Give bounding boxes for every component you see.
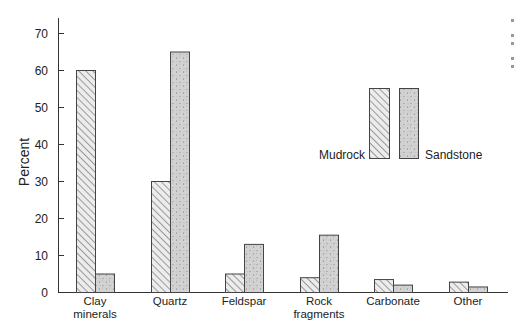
bar-mudrock-feldspar: [226, 274, 245, 293]
y-tick-label: 10: [35, 249, 49, 263]
bar-mudrock-other: [450, 282, 469, 292]
y-tick-label: 40: [35, 138, 49, 152]
bar-sandstone-clay-minerals: [96, 274, 115, 293]
bar-sandstone-quartz: [171, 52, 190, 293]
y-axis: 010203040506070: [35, 27, 64, 300]
bar-sandstone-carbonate: [394, 285, 413, 292]
x-category-label: Clay: [83, 295, 106, 307]
x-category-label: Carbonate: [366, 295, 420, 307]
x-category-label: fragments: [293, 308, 344, 320]
y-tick-label: 30: [35, 175, 49, 189]
bar-chart: 010203040506070 Percent ClaymineralsQuar…: [0, 0, 515, 336]
legend-swatch-sandstone: [400, 89, 419, 159]
y-tick-label: 50: [35, 101, 49, 115]
legend-swatch-mudrock: [370, 89, 390, 159]
legend-label-sandstone: Sandstone: [425, 148, 483, 162]
legend: Mudrock Sandstone: [319, 89, 483, 163]
bar-mudrock-quartz: [152, 182, 171, 293]
y-tick-label: 70: [35, 27, 49, 41]
bar-sandstone-other: [469, 287, 488, 293]
legend-label-mudrock: Mudrock: [319, 148, 366, 162]
x-category-label: Other: [454, 295, 483, 307]
bars-group: [77, 52, 488, 293]
y-tick-label: 0: [41, 286, 48, 300]
category-labels: ClaymineralsQuartzFeldsparRockfragmentsC…: [73, 295, 482, 320]
bar-mudrock-clay-minerals: [77, 71, 96, 293]
x-category-label: Rock: [306, 295, 332, 307]
x-category-label: Feldspar: [222, 295, 267, 307]
bar-mudrock-rock-fragments: [301, 278, 320, 293]
bar-mudrock-carbonate: [375, 280, 394, 293]
x-category-label: minerals: [73, 308, 117, 320]
bar-sandstone-feldspar: [245, 244, 264, 292]
cropped-edge-text: [511, 19, 514, 68]
x-category-label: Quartz: [153, 295, 188, 307]
y-axis-title: Percent: [16, 138, 32, 186]
bar-sandstone-rock-fragments: [320, 235, 339, 292]
y-tick-label: 20: [35, 212, 49, 226]
y-tick-label: 60: [35, 64, 49, 78]
